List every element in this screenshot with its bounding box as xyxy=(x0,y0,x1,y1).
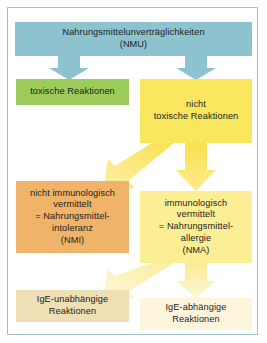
node-nmi: nicht immunologisch vermittelt = Nahrung… xyxy=(16,181,129,253)
node-ige-abhaengige-reaktionen: IgE-abhängige Reaktionen xyxy=(140,298,252,330)
node-nma-label: immunologisch vermittelt = Nahrungsmitte… xyxy=(159,198,233,257)
node-nma: immunologisch vermittelt = Nahrungsmitte… xyxy=(140,191,252,263)
figure-root: Nahrungsmittelunverträglichkeiten (NMU) … xyxy=(0,0,267,343)
node-nicht-toxische-reaktionen: nicht toxische Reaktionen xyxy=(140,79,252,143)
node-toxische-reaktionen: toxische Reaktionen xyxy=(16,79,129,105)
node-toxische-reaktionen-label: toxische Reaktionen xyxy=(30,86,115,98)
node-nmu-label: Nahrungsmittelunverträglichkeiten (NMU) xyxy=(62,27,204,51)
diagram-canvas: Nahrungsmittelunverträglichkeiten (NMU) … xyxy=(0,0,267,343)
node-nicht-toxische-reaktionen-label: nicht toxische Reaktionen xyxy=(154,99,239,123)
node-nmu: Nahrungsmittelunverträglichkeiten (NMU) xyxy=(15,22,252,56)
node-nmi-label: nicht immunologisch vermittelt = Nahrung… xyxy=(30,188,115,247)
node-ige-unabhaengige-reaktionen-label: IgE-unabhängige Reaktionen xyxy=(37,294,109,318)
node-ige-unabhaengige-reaktionen: IgE-unabhängige Reaktionen xyxy=(16,290,129,322)
node-ige-abhaengige-reaktionen-label: IgE-abhängige Reaktionen xyxy=(165,302,226,326)
figure-border-frame xyxy=(7,7,258,335)
